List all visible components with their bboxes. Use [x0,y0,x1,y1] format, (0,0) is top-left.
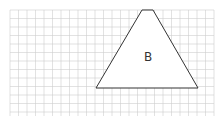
trapezoid-b [96,10,198,88]
trapezoid-diagram: B [0,0,220,119]
shape-label: B [144,50,152,64]
